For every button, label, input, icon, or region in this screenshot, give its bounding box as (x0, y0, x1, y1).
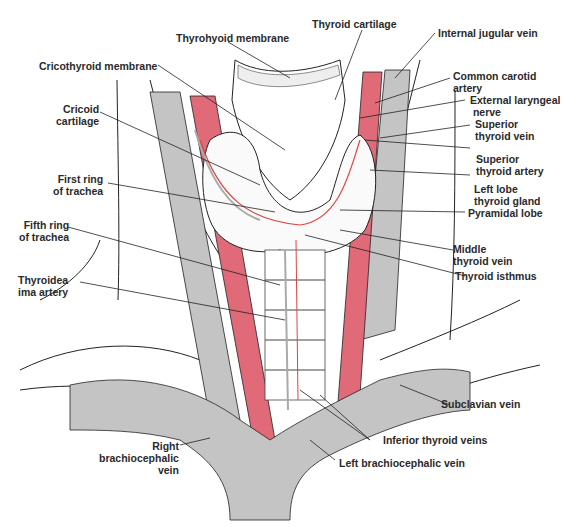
label-left-brachiocephalic-vein: Left brachiocephalic vein (339, 457, 465, 469)
label-pyramidal-lobe: Pyramidal lobe (468, 207, 543, 219)
label-internal-jugular-vein: Internal jugular vein (438, 27, 538, 39)
label-middle-thyroid-vein: Middle thyroid vein (453, 243, 513, 267)
label-inferior-thyroid-veins: Inferior thyroid veins (383, 434, 487, 446)
label-superior-thyroid-vein: Superior thyroid vein (475, 118, 535, 142)
label-thyroid-cartilage: Thyroid cartilage (312, 18, 397, 30)
label-cricoid-cartilage: Cricoid cartilage (56, 103, 99, 127)
label-first-ring-of-trachea: First ring of trachea (53, 173, 103, 197)
label-thyrohyoid-membrane: Thyrohyoid membrane (176, 32, 289, 44)
label-cricothyroid-membrane: Cricothyroid membrane (39, 60, 157, 72)
label-thyroidea-ima-artery: Thyroidea ima artery (18, 274, 68, 298)
label-left-lobe-thyroid-gland: Left lobe thyroid gland (474, 183, 541, 207)
label-subclavian-vein: Subclavian vein (441, 398, 520, 410)
label-fifth-ring-of-trachea: Fifth ring of trachea (19, 219, 69, 243)
label-superior-thyroid-artery: Superior thyroid artery (476, 153, 544, 177)
label-thyroid-isthmus: Thyroid isthmus (455, 270, 537, 282)
label-external-laryngeal-nerve: External laryngeal nerve (470, 94, 560, 118)
label-common-carotid-artery: Common carotid artery (453, 70, 536, 94)
label-right-brachiocephalic-vein: Right brachiocephalic vein (99, 440, 179, 476)
trachea (265, 240, 325, 410)
